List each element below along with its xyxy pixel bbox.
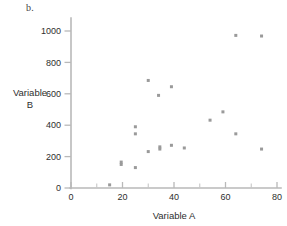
data-point <box>221 110 224 113</box>
data-point <box>260 148 263 151</box>
data-point <box>170 85 173 88</box>
x-tick-label: 60 <box>220 192 230 202</box>
x-tick-label: 0 <box>68 192 73 202</box>
data-point <box>147 79 150 82</box>
figure-panel-b: b. Variable B Variable A 020040060080010… <box>0 0 287 226</box>
data-point <box>234 34 237 37</box>
data-point <box>120 163 123 166</box>
y-tick-label: 800 <box>46 58 61 68</box>
data-point <box>147 150 150 153</box>
data-point <box>134 132 137 135</box>
y-tick-label: 1000 <box>41 26 61 36</box>
x-tick-label: 40 <box>169 192 179 202</box>
y-tick-label: 600 <box>46 89 61 99</box>
scatter-plot: 02004006008001000 020406080 <box>0 0 287 226</box>
y-tick-label: 400 <box>46 120 61 130</box>
data-point <box>134 125 137 128</box>
data-point <box>157 94 160 97</box>
data-point <box>234 132 237 135</box>
x-tick-label: 80 <box>272 192 282 202</box>
x-axis-ticks: 020406080 <box>68 182 282 202</box>
x-tick-label: 20 <box>117 192 127 202</box>
y-axis-ticks: 02004006008001000 <box>41 26 71 193</box>
data-point <box>183 146 186 149</box>
data-point <box>260 35 263 38</box>
y-tick-label: 0 <box>56 183 61 193</box>
data-point <box>108 183 111 186</box>
y-tick-label: 200 <box>46 152 61 162</box>
data-point <box>134 166 137 169</box>
axes <box>70 18 281 189</box>
data-point <box>158 148 161 151</box>
data-point <box>170 144 173 147</box>
data-points <box>108 34 263 186</box>
data-point <box>209 119 212 122</box>
